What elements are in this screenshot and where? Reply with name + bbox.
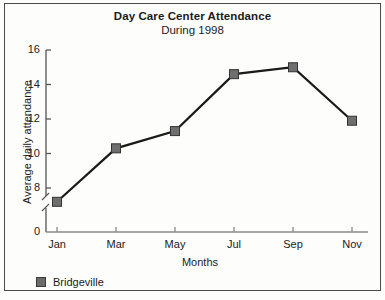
data-point-marker	[230, 70, 239, 79]
series-layer	[53, 63, 357, 207]
data-point-marker	[53, 197, 62, 206]
axes-layer	[42, 50, 368, 232]
legend-swatch-icon	[36, 277, 46, 287]
x-tick-label: May	[151, 238, 199, 250]
legend-label: Bridgeville	[53, 276, 104, 288]
data-point-marker	[348, 116, 357, 125]
chart-legend: Bridgeville	[36, 276, 104, 288]
x-axis-label: Months	[40, 256, 360, 268]
data-point-marker	[112, 144, 121, 153]
data-point-marker	[171, 127, 180, 136]
x-tick-label: Jul	[210, 238, 258, 250]
plot-area	[0, 0, 385, 300]
x-tick-label: Sep	[269, 238, 317, 250]
x-tick-label: Nov	[328, 238, 376, 250]
x-tick-label: Jan	[33, 238, 81, 250]
data-point-marker	[289, 63, 298, 72]
x-tick-label: Mar	[92, 238, 140, 250]
chart-figure: Day Care Center Attendance During 1998 0…	[0, 0, 385, 300]
y-axis-label: Average daily attendance	[21, 52, 33, 232]
